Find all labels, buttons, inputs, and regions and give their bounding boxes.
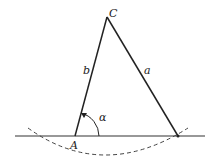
angle-arrow-icon (81, 113, 87, 118)
triangle-diagram: C A b a α (0, 0, 221, 164)
angle-alpha-label: α (99, 111, 107, 124)
vertex-a-label: A (69, 139, 78, 152)
vertex-c-label: C (109, 7, 118, 20)
side-a-label: a (144, 64, 151, 77)
vertex-b-point (177, 135, 180, 138)
dashed-arc (28, 128, 188, 155)
side-a (107, 17, 178, 136)
side-b-label: b (83, 64, 90, 77)
